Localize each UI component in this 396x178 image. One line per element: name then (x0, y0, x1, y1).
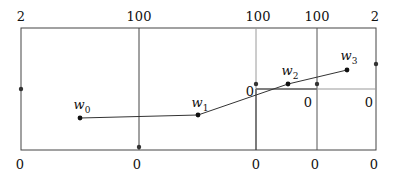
point-label-w1: w1 (192, 96, 209, 113)
edge-dot-bottom (137, 145, 141, 149)
path-polyline (80, 70, 347, 118)
bottom-label-4: 0 (311, 158, 319, 171)
bottom-label-5: 0 (370, 158, 378, 171)
inner-label-3: 0 (365, 96, 373, 109)
point-w3 (345, 68, 350, 73)
bottom-label-2: 0 (133, 158, 141, 171)
bottom-label-1: 0 (16, 158, 24, 171)
bottom-label-3: 0 (252, 158, 260, 171)
top-label-1: 2 (17, 10, 25, 23)
w3-subscript: 3 (352, 56, 358, 66)
w1-subscript: 1 (203, 103, 209, 113)
top-label-2: 100 (127, 10, 152, 23)
point-w0 (78, 116, 83, 121)
edge-dot-right (374, 62, 378, 66)
w0-subscript: 0 (85, 105, 91, 115)
top-label-3: 100 (246, 10, 271, 23)
w1-text: w (192, 95, 203, 110)
point-w2 (286, 82, 291, 87)
point-label-w0: w0 (74, 98, 91, 115)
w3-text: w (341, 48, 352, 63)
top-label-5: 2 (371, 10, 379, 23)
w0-text: w (74, 97, 85, 112)
inner-label-1: 0 (246, 85, 254, 98)
w2-subscript: 2 (293, 71, 299, 81)
edge-dot-left (19, 87, 23, 91)
point-w1 (196, 113, 201, 118)
inner-label-2: 0 (304, 96, 312, 109)
w2-text: w (282, 63, 293, 78)
edge-dot-mid-1 (254, 82, 258, 86)
diagram-canvas (0, 0, 396, 178)
point-label-w2: w2 (282, 64, 299, 81)
top-label-4: 100 (305, 10, 330, 23)
point-label-w3: w3 (341, 49, 358, 66)
edge-dot-mid-2 (315, 82, 319, 86)
